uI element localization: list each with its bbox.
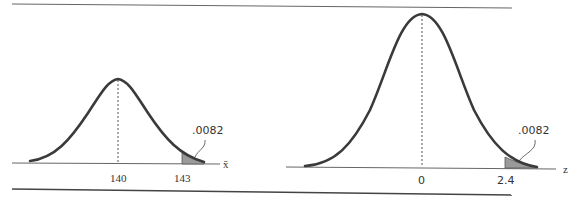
right-axis-label: z — [563, 163, 568, 175]
left-normal-curve — [30, 79, 204, 162]
right-cut-tick-label: 2.4 — [497, 174, 515, 187]
right-mean-tick-label: 0 — [418, 174, 425, 187]
right-normal-chart: .0082 0 2.4 z — [286, 14, 568, 187]
figure: .0082 140 143 x̄ .0082 0 2.4 z — [0, 0, 577, 203]
top-rule — [12, 4, 512, 8]
right-normal-curve — [305, 14, 537, 167]
left-cut-tick-label: 143 — [174, 172, 191, 184]
bottom-rule — [12, 189, 512, 195]
left-area-label: .0082 — [192, 124, 224, 137]
left-normal-chart: .0082 140 143 x̄ — [12, 79, 229, 184]
right-annotation-leader — [519, 140, 535, 161]
left-mean-tick-label: 140 — [110, 172, 127, 184]
right-area-label: .0082 — [518, 124, 550, 137]
left-axis-label: x̄ — [223, 158, 229, 170]
left-annotation-leader — [195, 140, 205, 157]
